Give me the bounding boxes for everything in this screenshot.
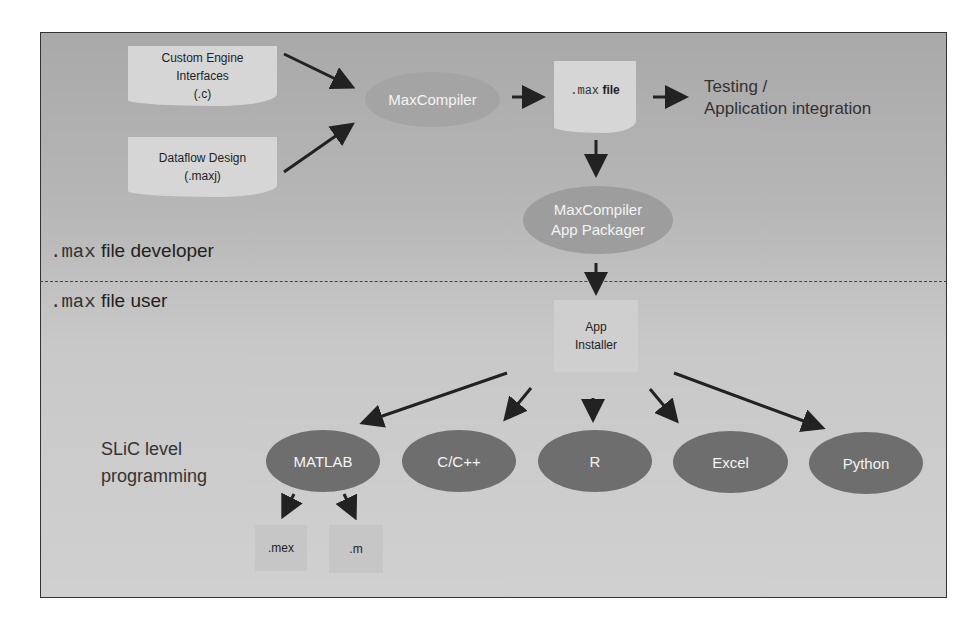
arrow-icon	[674, 373, 820, 427]
arrows-layer	[0, 0, 956, 631]
arrow-icon	[284, 494, 294, 514]
arrow-icon	[284, 54, 350, 86]
arrow-icon	[507, 388, 531, 417]
arrow-icon	[284, 126, 350, 172]
arrow-icon	[650, 389, 675, 419]
arrow-icon	[365, 373, 507, 422]
arrow-icon	[344, 494, 354, 515]
